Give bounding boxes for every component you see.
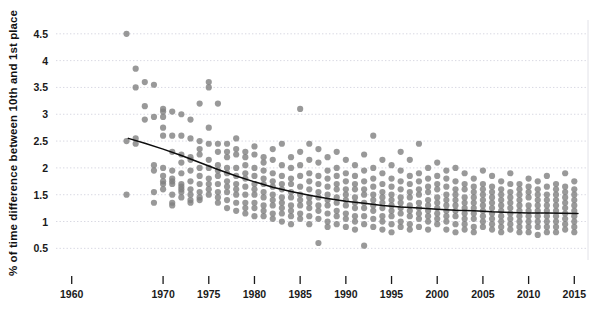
scatter-point [535, 224, 541, 230]
scatter-point [197, 100, 203, 106]
scatter-point [370, 165, 376, 171]
scatter-point [297, 173, 303, 179]
scatter-point [571, 197, 577, 203]
scatter-point [462, 200, 468, 206]
scatter-point [443, 176, 449, 182]
chart-figure: % of time difference between 10th and 1s… [0, 0, 600, 315]
scatter-point [343, 202, 349, 208]
scatter-point [516, 186, 522, 192]
scatter-point [535, 213, 541, 219]
scatter-point [452, 192, 458, 198]
scatter-point [416, 200, 422, 206]
scatter-point [489, 221, 495, 227]
scatter-point [553, 224, 559, 230]
scatter-point [544, 229, 550, 235]
scatter-point [169, 133, 175, 139]
scatter-point [242, 200, 248, 206]
scatter-point [553, 229, 559, 235]
scatter-point [462, 186, 468, 192]
x-tick-marks-group [72, 276, 575, 284]
scatter-point [233, 181, 239, 187]
scatter-point [425, 226, 431, 232]
scatter-point [334, 221, 340, 227]
scatter-point [562, 184, 568, 190]
scatter-point [306, 141, 312, 147]
scatter-point [334, 165, 340, 171]
scatter-point [526, 176, 532, 182]
scatter-point [343, 178, 349, 184]
scatter-point [352, 205, 358, 211]
scatter-point [398, 149, 404, 155]
scatter-point [379, 218, 385, 224]
scatter-point [288, 208, 294, 214]
x-tick-label: 1980 [243, 288, 267, 300]
scatter-point [379, 170, 385, 176]
scatter-point [224, 184, 230, 190]
scatter-point [407, 213, 413, 219]
scatter-point [279, 181, 285, 187]
scatter-point [416, 192, 422, 198]
scatter-point [160, 125, 166, 131]
scatter-point [361, 178, 367, 184]
y-tick-label: 0.5 [33, 242, 48, 254]
scatter-point [571, 186, 577, 192]
scatter-point [562, 194, 568, 200]
scatter-point [270, 170, 276, 176]
scatter-point [535, 202, 541, 208]
scatter-point [462, 226, 468, 232]
scatter-point [462, 216, 468, 222]
scatter-point [261, 189, 267, 195]
scatter-point [489, 205, 495, 211]
scatter-point [544, 202, 550, 208]
scatter-point [123, 31, 129, 37]
scatter-point [233, 208, 239, 214]
scatter-point [251, 192, 257, 198]
scatter-point [571, 178, 577, 184]
scatter-point [315, 240, 321, 246]
scatter-point [151, 167, 157, 173]
scatter-point [261, 202, 267, 208]
scatter-point [507, 210, 513, 216]
scatter-point [215, 189, 221, 195]
scatter-point [315, 173, 321, 179]
scatter-point [251, 200, 257, 206]
scatter-point [489, 216, 495, 222]
scatter-point [452, 213, 458, 219]
scatter-point [324, 218, 330, 224]
scatter-point [324, 154, 330, 160]
x-tick-label: 1990 [334, 288, 358, 300]
scatter-point [324, 184, 330, 190]
x-tick-labels-group: 1960197019751980198519901995200020052010… [60, 288, 586, 300]
scatter-point [261, 167, 267, 173]
scatter-point [206, 84, 212, 90]
scatter-point [306, 205, 312, 211]
scatter-point [169, 181, 175, 187]
scatter-point [398, 194, 404, 200]
scatter-point [288, 194, 294, 200]
x-tick-label: 1975 [197, 288, 221, 300]
scatter-point [407, 221, 413, 227]
x-tick-label: 2000 [426, 288, 450, 300]
scatter-point [178, 170, 184, 176]
scatter-point [388, 184, 394, 190]
scatter-point [425, 197, 431, 203]
scatter-point [279, 141, 285, 147]
scatter-point [261, 208, 267, 214]
scatter-point [288, 221, 294, 227]
scatter-point [434, 200, 440, 206]
scatter-point [471, 176, 477, 182]
x-tick-label: 1985 [288, 288, 312, 300]
scatter-point [480, 181, 486, 187]
scatter-point [398, 218, 404, 224]
scatter-point [334, 208, 340, 214]
scatter-point [471, 189, 477, 195]
scatter-point [553, 202, 559, 208]
scatter-point [343, 210, 349, 216]
scatter-point [261, 194, 267, 200]
scatter-point [288, 202, 294, 208]
scatter-point [187, 167, 193, 173]
scatter-point [398, 224, 404, 230]
scatter-point [370, 208, 376, 214]
scatter-point [480, 213, 486, 219]
scatter-point [452, 202, 458, 208]
